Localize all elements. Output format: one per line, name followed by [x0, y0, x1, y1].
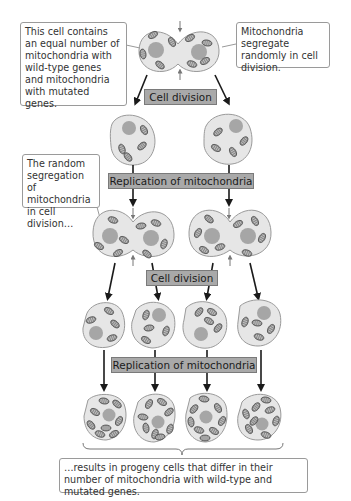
stage-label-replication-1: Replication of mitochondria: [108, 173, 254, 189]
callout-pointer-right: [222, 44, 236, 47]
dividing-cell-right: [189, 210, 271, 257]
progeny-cell-4: [238, 300, 281, 346]
progeny-cell-3: [183, 302, 227, 349]
dividing-cell-top: [139, 30, 219, 72]
dividing-cell-left: [93, 210, 174, 259]
grouping-brace: [83, 443, 283, 455]
stage-label-cell-division-1: Cell division: [144, 89, 217, 105]
final-cell-2: [134, 394, 175, 442]
progeny-cell-1: [83, 303, 125, 348]
final-cell-4: [238, 394, 281, 440]
daughter-cell-right: [204, 114, 252, 164]
stage-label-cell-division-2: Cell division: [146, 270, 218, 286]
callout-random-segregation-division: The random segregation of mitochondria i…: [22, 154, 100, 208]
final-cell-1: [84, 394, 126, 440]
callout-random-segregation: Mitochondria segregate randomly in cell …: [236, 22, 330, 68]
final-cell-3: [186, 393, 227, 442]
daughter-cell-left: [110, 115, 155, 165]
callout-progeny-result: …results in progeny cells that differ in…: [59, 458, 308, 493]
stage-label-replication-2: Replication of mitochondria: [111, 357, 257, 373]
callout-equal-mitochondria: This cell contains an equal number of mi…: [20, 22, 127, 106]
callout-pointer-left: [126, 45, 140, 48]
progeny-cell-2: [132, 302, 175, 348]
